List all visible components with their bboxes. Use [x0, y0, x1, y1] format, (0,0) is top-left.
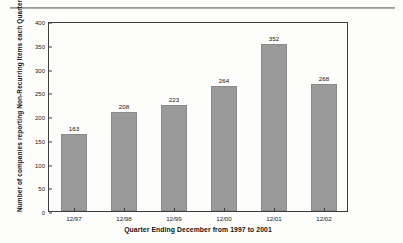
x-tick-label: 12/00: [216, 215, 231, 222]
y-tick-label: 400: [35, 20, 49, 26]
y-tick-label: 150: [35, 139, 49, 145]
y-tick-label: 250: [35, 91, 49, 97]
bar-value-label: 223: [169, 96, 179, 103]
y-axis-label: Number of companies reporting Non-Recurr…: [15, 36, 24, 212]
bar[interactable]: [211, 86, 237, 211]
bar[interactable]: [111, 112, 137, 211]
bar-value-label: 208: [119, 103, 129, 110]
bar-group[interactable]: 264: [211, 23, 237, 211]
bar[interactable]: [261, 44, 287, 211]
x-tick-mark: [324, 208, 325, 211]
x-tick-mark: [174, 208, 175, 211]
x-tick-mark: [224, 208, 225, 211]
y-tick-label: 300: [35, 68, 49, 74]
header-divider: [10, 7, 395, 9]
x-tick-label: 12/01: [266, 215, 281, 222]
bar-value-label: 268: [319, 75, 329, 82]
bar[interactable]: [311, 84, 337, 211]
y-axis-label-container: Number of companies reporting Non-Recurr…: [8, 34, 30, 214]
plot-area: 050100150200250300350400 16312/9720812/9…: [48, 22, 348, 212]
bar-group[interactable]: 352: [261, 23, 287, 211]
bar-group[interactable]: 223: [161, 23, 187, 211]
y-tick-label: 100: [35, 163, 49, 169]
y-tick-label: 0: [42, 210, 49, 216]
bar-value-label: 264: [219, 77, 229, 84]
bar-group[interactable]: 163: [61, 23, 87, 211]
y-tick-label: 50: [38, 186, 49, 192]
bar-group[interactable]: 268: [311, 23, 337, 211]
bar-value-label: 352: [269, 35, 279, 42]
bar-chart-figure: Number of companies reporting Non-Recurr…: [0, 14, 403, 243]
x-tick-mark: [274, 208, 275, 211]
chart-page: Number of companies reporting Non-Recurr…: [0, 0, 403, 243]
y-tick-mark: [49, 213, 52, 214]
y-tick-label: 350: [35, 44, 49, 50]
x-tick-label: 12/98: [116, 215, 131, 222]
bar-value-label: 163: [69, 125, 79, 132]
x-tick-mark: [74, 208, 75, 211]
y-tick-label: 200: [35, 115, 49, 121]
x-tick-label: 12/99: [166, 215, 181, 222]
bars-layer: 16312/9720812/9822312/9926412/0035212/01…: [49, 23, 347, 211]
bar[interactable]: [61, 134, 87, 211]
x-tick-mark: [124, 208, 125, 211]
x-axis-label: Quarter Ending December from 1997 to 200…: [48, 226, 348, 233]
bar[interactable]: [161, 105, 187, 211]
bar-group[interactable]: 208: [111, 23, 137, 211]
x-tick-label: 12/02: [316, 215, 331, 222]
x-tick-label: 12/97: [66, 215, 81, 222]
